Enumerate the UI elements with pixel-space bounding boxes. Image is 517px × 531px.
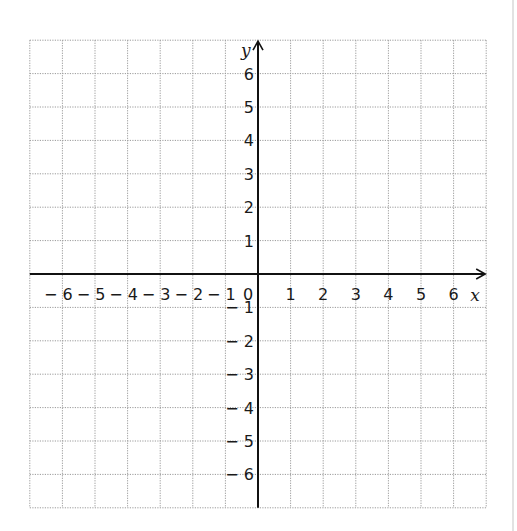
y-tick-label: 4	[244, 131, 254, 150]
y-tick-label: − 1	[225, 298, 254, 317]
x-tick-label: 2	[318, 285, 328, 304]
y-tick-label: − 6	[225, 465, 254, 484]
x-tick-label: − 4	[109, 285, 138, 304]
x-tick-label: 1	[286, 285, 296, 304]
axes	[30, 41, 485, 508]
x-tick-label: 5	[416, 285, 426, 304]
y-tick-label: 6	[244, 65, 254, 84]
x-tick-label: 4	[383, 285, 393, 304]
y-tick-label: − 5	[225, 432, 254, 451]
x-tick-label: − 2	[174, 285, 203, 304]
y-axis-label: y	[240, 40, 251, 60]
y-tick-label: 3	[244, 165, 254, 184]
x-tick-label: 6	[449, 285, 459, 304]
y-tick-label: − 4	[225, 399, 254, 418]
x-tick-label: 3	[351, 285, 361, 304]
coordinate-plane: − 6− 5− 4− 3− 2− 10123456654321− 1− 2− 3…	[0, 0, 517, 531]
y-tick-label: 2	[244, 198, 254, 217]
y-tick-label: 1	[244, 232, 254, 251]
x-tick-label: − 5	[77, 285, 106, 304]
y-tick-label: − 3	[225, 365, 254, 384]
y-tick-label: 5	[244, 98, 254, 117]
x-tick-label: − 6	[44, 285, 73, 304]
x-tick-label: − 3	[142, 285, 171, 304]
y-tick-label: − 2	[225, 332, 254, 351]
x-axis-label: x	[470, 285, 480, 305]
